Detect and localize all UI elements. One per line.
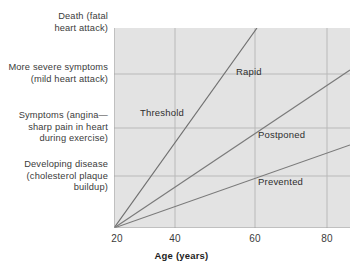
plot-area: Threshold Rapid Postponed Prevented [114,28,350,228]
y-axis-label-severe-symptoms: More severe symptoms (mild heart attack) [0,62,108,85]
y-axis-label-symptoms-line1: Symptoms (angina— [0,110,108,122]
series-line-prevented [114,145,350,228]
y-axis-label-symptoms-line2: sharp pain in heart [0,122,108,134]
annotation-postponed: Postponed [258,129,305,140]
annotation-rapid: Rapid [236,66,262,77]
x-axis-tick-60: 60 [235,233,275,244]
x-axis-title: Age (years) [0,250,363,261]
chart-figure: Threshold Rapid Postponed Prevented Deat… [0,0,363,272]
annotation-threshold: Threshold [140,107,184,118]
y-axis-label-developing-disease: Developing disease (cholesterol plaque b… [0,159,108,194]
x-axis-tick-40: 40 [155,233,195,244]
y-axis-label-symptoms-line3: during exercise) [0,133,108,145]
y-axis-label-symptoms: Symptoms (angina— sharp pain in heart du… [0,110,108,145]
y-axis-label-developing-disease-line1: Developing disease [0,159,108,171]
x-axis-tick-80: 80 [307,233,347,244]
y-axis-label-severe-symptoms-line1: More severe symptoms [0,62,108,74]
y-axis-label-developing-disease-line2: (cholesterol plaque [0,171,108,183]
y-axis-label-death: Death (fatal heart attack) [0,11,108,34]
y-axis-label-death-line2: heart attack) [0,23,108,35]
series-line-postponed [114,70,350,228]
plot-canvas [114,28,350,228]
y-axis-label-death-line1: Death (fatal [0,11,108,23]
y-axis-label-severe-symptoms-line2: (mild heart attack) [0,74,108,86]
annotation-prevented: Prevented [258,176,303,187]
x-axis-tick-20: 20 [97,233,137,244]
y-axis-label-developing-disease-line3: buildup) [0,182,108,194]
